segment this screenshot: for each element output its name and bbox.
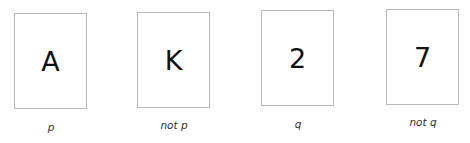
card-face: K (165, 47, 183, 74)
label-not-p: not p (114, 119, 234, 131)
card-face: A (41, 48, 59, 75)
label-p: p (0, 121, 111, 133)
label-not-q: not q (363, 116, 470, 128)
card-7: 7 (386, 9, 459, 105)
card-k: K (137, 12, 210, 108)
label-q: q (238, 118, 358, 130)
card-face: 7 (414, 44, 431, 71)
card-2: 2 (261, 10, 334, 106)
card-a: A (14, 13, 87, 109)
card-face: 2 (289, 45, 306, 72)
